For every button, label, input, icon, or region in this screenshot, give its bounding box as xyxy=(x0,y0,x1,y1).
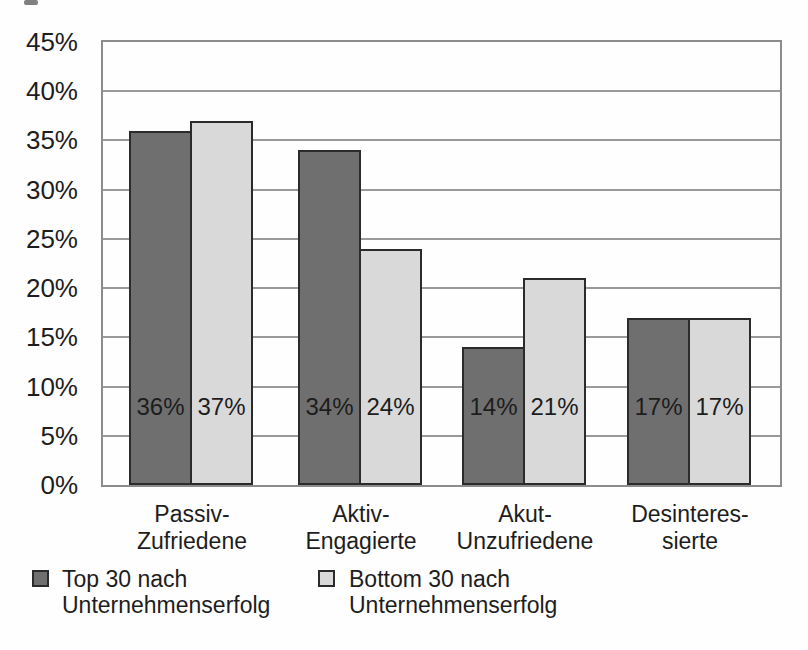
y-tick-30: 30% xyxy=(0,177,78,203)
bar-value-series2-group2: 24% xyxy=(359,395,422,419)
scan-artifact xyxy=(24,0,38,5)
y-tick-15: 15% xyxy=(0,324,78,350)
gridline-40 xyxy=(103,90,780,92)
y-tick-35: 35% xyxy=(0,127,78,153)
bar-series2-group3 xyxy=(523,278,586,485)
bar-series2-group2 xyxy=(359,249,422,485)
bar-series2-group1 xyxy=(190,121,253,485)
bar-value-series2-group3: 21% xyxy=(523,395,586,419)
legend-label-top30: Top 30 nach Unternehmenserfolg xyxy=(62,566,270,618)
y-tick-25: 25% xyxy=(0,226,78,252)
y-tick-40: 40% xyxy=(0,78,78,104)
legend-swatch-bottom30 xyxy=(318,570,335,587)
plot-area: 36%37%34%24%14%21%17%17% xyxy=(101,40,782,487)
bar-value-series1-group3: 14% xyxy=(462,395,525,419)
y-tick-10: 10% xyxy=(0,374,78,400)
x-label-group4: Desinteres- sierte xyxy=(580,501,800,555)
bar-value-series2-group1: 37% xyxy=(190,395,253,419)
y-tick-45: 45% xyxy=(0,29,78,55)
bar-series1-group2 xyxy=(298,150,361,485)
bar-value-series1-group4: 17% xyxy=(627,395,690,419)
bar-value-series2-group4: 17% xyxy=(688,395,751,419)
bar-value-series1-group1: 36% xyxy=(129,395,192,419)
bar-series1-group1 xyxy=(129,131,192,485)
legend-swatch-top30 xyxy=(32,570,49,587)
legend-label-bottom30: Bottom 30 nach Unternehmenserfolg xyxy=(349,566,557,618)
y-tick-0: 0% xyxy=(0,472,78,498)
y-tick-20: 20% xyxy=(0,275,78,301)
bar-value-series1-group2: 34% xyxy=(298,395,361,419)
y-tick-5: 5% xyxy=(0,423,78,449)
